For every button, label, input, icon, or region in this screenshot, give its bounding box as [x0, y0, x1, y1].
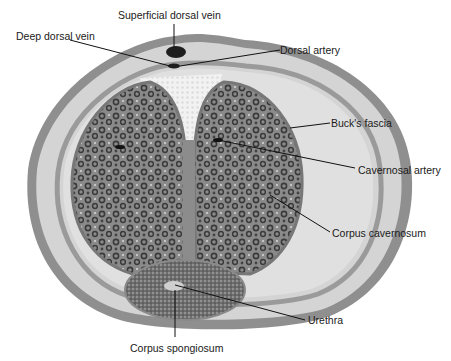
penis-cross-section-diagram — [0, 0, 451, 361]
label-corpus-spongiosum: Corpus spongiosum — [130, 342, 223, 354]
septum — [183, 140, 195, 280]
label-corpus-cavernosum: Corpus cavernosum — [332, 227, 426, 239]
urethra — [164, 281, 184, 291]
corpus-spongiosum — [125, 260, 245, 320]
superficial-dorsal-vein — [166, 46, 186, 58]
label-dorsal-artery: Dorsal artery — [280, 44, 340, 56]
label-cavernosal-artery: Cavernosal artery — [358, 164, 441, 176]
label-bucks-fascia: Buck's fascia — [331, 117, 392, 129]
cavernosal-artery-left — [115, 145, 125, 149]
label-deep-dorsal-vein: Deep dorsal vein — [16, 30, 95, 42]
label-superficial-dorsal-vein: Superficial dorsal vein — [118, 9, 221, 21]
label-urethra: Urethra — [308, 314, 343, 326]
